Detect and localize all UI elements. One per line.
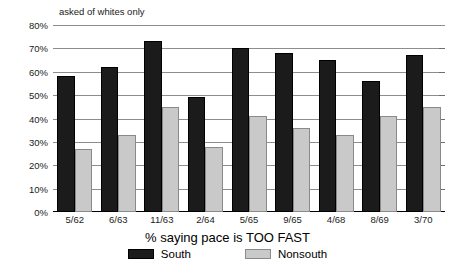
bar-nonsouth <box>118 135 136 212</box>
legend-swatch-south <box>128 249 154 259</box>
legend-swatch-nonsouth <box>245 249 271 259</box>
bar-south <box>188 97 206 212</box>
y-axis-tick-label: 60% <box>4 66 48 77</box>
bar-south <box>144 41 162 212</box>
x-axis-title: % saying pace is TOO FAST <box>0 230 455 245</box>
bar-nonsouth <box>249 116 267 212</box>
bar-series-container <box>53 25 445 212</box>
bar-nonsouth <box>75 149 93 212</box>
y-axis-tick-label: 20% <box>4 160 48 171</box>
bar-group <box>232 25 267 212</box>
bar-nonsouth <box>423 107 441 212</box>
x-axis-tick-label: 4/68 <box>314 214 358 225</box>
bar-nonsouth <box>205 147 223 212</box>
bar-group <box>406 25 441 212</box>
x-axis-tick-label: 6/63 <box>97 214 141 225</box>
y-axis-tick-label: 50% <box>4 90 48 101</box>
bar-group <box>101 25 136 212</box>
x-axis-tick-labels: 5/626/6311/632/645/659/654/688/693/70 <box>53 214 445 228</box>
bar-nonsouth <box>293 128 311 212</box>
bar-group <box>57 25 92 212</box>
bar-south <box>57 76 75 212</box>
bar-south <box>101 67 119 212</box>
bar-nonsouth <box>162 107 180 212</box>
bar-group <box>362 25 397 212</box>
x-axis-tick-label: 2/64 <box>184 214 228 225</box>
bar-south <box>232 48 250 212</box>
legend-item-south: South <box>128 248 191 260</box>
legend-item-nonsouth: Nonsouth <box>245 248 327 260</box>
bar-nonsouth <box>380 116 398 212</box>
x-axis-tick-label: 5/65 <box>227 214 271 225</box>
x-axis-tick-label: 11/63 <box>140 214 184 225</box>
bar-south <box>362 81 380 212</box>
y-axis-tick-label: 40% <box>4 113 48 124</box>
x-axis-tick-label: 5/62 <box>53 214 97 225</box>
x-axis-tick-label: 8/69 <box>358 214 402 225</box>
x-axis-tick-label: 3/70 <box>401 214 445 225</box>
chart-annotation: asked of whites only <box>59 6 145 17</box>
y-axis-tick-label: 30% <box>4 136 48 147</box>
chart-legend: South Nonsouth <box>0 248 455 260</box>
bar-group <box>188 25 223 212</box>
y-axis-tick-label: 10% <box>4 183 48 194</box>
bar-group <box>144 25 179 212</box>
legend-label-south: South <box>161 248 191 260</box>
bar-south <box>319 60 337 212</box>
y-axis-tick-label: 0% <box>4 207 48 218</box>
y-axis-tick-label: 70% <box>4 43 48 54</box>
y-axis-tick-label: 80% <box>4 20 48 31</box>
bar-chart: asked of whites only 0%10%20%30%40%50%60… <box>0 0 455 270</box>
plot-area: 0%10%20%30%40%50%60%70%80% <box>53 25 445 212</box>
bar-nonsouth <box>336 135 354 212</box>
bar-south <box>275 53 293 212</box>
bar-group <box>275 25 310 212</box>
x-axis-tick-label: 9/65 <box>271 214 315 225</box>
legend-label-nonsouth: Nonsouth <box>278 248 327 260</box>
bar-group <box>319 25 354 212</box>
bar-south <box>406 55 424 212</box>
